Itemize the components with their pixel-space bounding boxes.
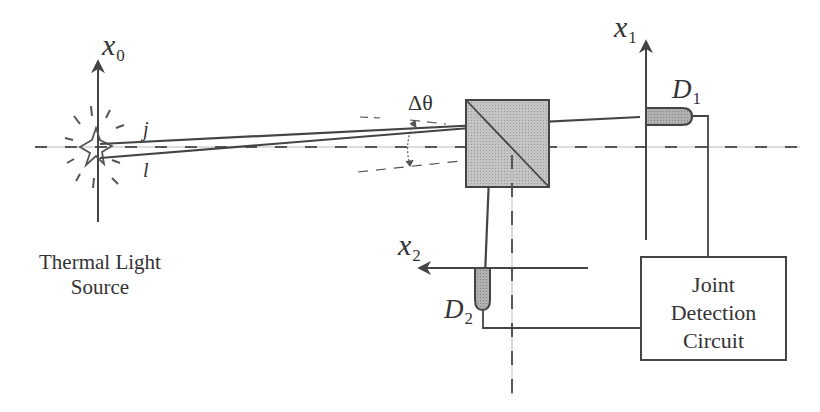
delta-theta-label: Δθ [408, 92, 433, 114]
wire-d2-circuit [483, 310, 641, 328]
ray-label-l: l [143, 160, 149, 180]
thermal-source-label: Thermal Light Source [20, 250, 180, 300]
detector-d2-icon [475, 268, 490, 310]
d1-label: D1 [672, 76, 701, 107]
light-rays [100, 117, 640, 300]
ray-label-j: j [143, 119, 149, 139]
circuit-label-line3: Circuit [641, 327, 786, 355]
thermal-source-label-line1: Thermal Light [20, 250, 180, 275]
x0-axis-label: x0 [102, 30, 125, 64]
x2-axis-label: x2 [398, 230, 421, 264]
thermal-source-label-line2: Source [20, 275, 180, 300]
circuit-label-line2: Detection [641, 299, 786, 327]
x1-axis-label: x1 [614, 12, 637, 46]
joint-detection-circuit-label: Joint Detection Circuit [641, 271, 786, 355]
wire-d1-circuit [692, 116, 708, 257]
ghost-imaging-diagram: x0 j l Thermal Light Source Δθ x1 D1 x2 … [0, 0, 820, 412]
detector-d1-icon [646, 108, 692, 125]
circuit-label-line1: Joint [641, 271, 786, 299]
beam-splitter-cube [466, 100, 549, 187]
d2-label: D2 [444, 296, 473, 327]
